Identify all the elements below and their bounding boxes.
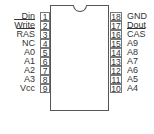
pin-13-box: 13	[110, 57, 122, 66]
pin-9-box: 9	[40, 84, 50, 93]
pin-15-box: 15	[110, 39, 122, 48]
pin-17-box: 17	[110, 21, 122, 30]
pin-18-box: 18	[110, 12, 122, 21]
pin-5-box: 5	[40, 48, 50, 57]
pin-3-box: 3	[40, 30, 50, 39]
pin-14-box: 14	[110, 48, 122, 57]
pin-9-label: Vcc	[20, 84, 35, 93]
orientation-notch	[73, 5, 87, 12]
pin-2-box: 2	[40, 21, 50, 30]
pin-1-box: 1	[40, 12, 50, 21]
pin-10-box: 10	[110, 84, 122, 93]
pin-7-box: 7	[40, 66, 50, 75]
pin-4-box: 4	[40, 39, 50, 48]
pin-11-box: 11	[110, 75, 122, 84]
pin-16-box: 16	[110, 30, 122, 39]
pin-10-label: A4	[127, 84, 138, 93]
pin-6-box: 6	[40, 57, 50, 66]
pin-12-box: 12	[110, 66, 122, 75]
chip-body	[50, 5, 109, 111]
pin-8-box: 8	[40, 75, 50, 84]
